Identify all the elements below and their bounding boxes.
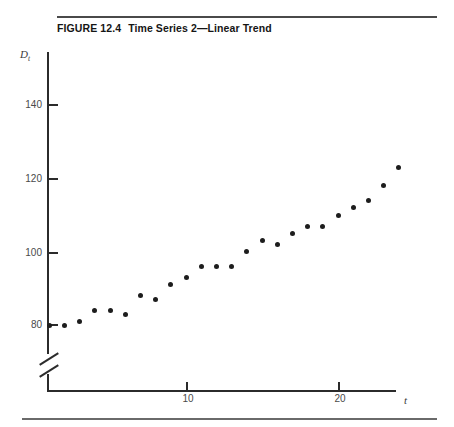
y-tick-label-100: 100 — [14, 248, 42, 258]
y-tick-label-140: 140 — [14, 100, 42, 110]
scatter-point — [351, 205, 356, 210]
scatter-point — [108, 308, 113, 313]
y-tick-label-100-wrap: 100 — [8, 248, 42, 258]
scatter-point — [275, 242, 280, 247]
scatter-point — [214, 264, 219, 269]
scatter-point — [168, 282, 173, 287]
scatter-point — [320, 224, 325, 229]
scatter-point — [396, 165, 401, 170]
scatter-point — [305, 224, 310, 229]
scatter-point — [138, 293, 143, 298]
y-axis-line — [47, 52, 49, 354]
plot-area: Dt 80 100 120 140 10 20 t — [0, 0, 454, 427]
x-axis-title: t — [404, 394, 407, 406]
scatter-point — [229, 264, 234, 269]
scatter-point — [77, 319, 82, 324]
scatter-point — [290, 231, 295, 236]
y-tick-120 — [49, 178, 58, 180]
x-axis-line — [47, 390, 396, 392]
y-tick-100 — [49, 252, 58, 254]
scatter-point — [260, 238, 265, 243]
scatter-point — [199, 264, 204, 269]
scatter-point — [336, 213, 341, 218]
scatter-point — [47, 323, 52, 328]
x-tick-20 — [338, 382, 340, 390]
y-tick-label-140-wrap: 140 — [8, 100, 42, 110]
figure-bottom-rule — [22, 418, 437, 420]
scatter-point — [153, 297, 158, 302]
y-tick-label-80-wrap: 80 — [8, 320, 42, 330]
x-tick-label-20: 20 — [320, 394, 360, 404]
scatter-point — [381, 183, 386, 188]
scatter-point — [92, 308, 97, 313]
y-tick-label-120: 120 — [14, 174, 42, 184]
figure-container: FIGURE 12.4Time Series 2—Linear Trend Dt… — [0, 0, 454, 427]
scatter-point — [366, 198, 371, 203]
y-axis-title-subscript: t — [28, 54, 30, 63]
y-axis-title: Dt — [20, 48, 30, 63]
y-axis-break-mark-lower — [39, 364, 59, 377]
scatter-point — [184, 275, 189, 280]
y-tick-label-80: 80 — [14, 320, 42, 330]
y-axis-title-symbol: D — [20, 48, 28, 60]
scatter-point — [62, 323, 67, 328]
scatter-point — [123, 312, 128, 317]
y-axis-break-mark-upper — [39, 352, 59, 365]
scatter-point — [244, 249, 249, 254]
y-tick-140 — [49, 104, 58, 106]
x-tick-label-10: 10 — [168, 394, 208, 404]
x-tick-10 — [186, 382, 188, 390]
y-tick-label-120-wrap: 120 — [8, 174, 42, 184]
